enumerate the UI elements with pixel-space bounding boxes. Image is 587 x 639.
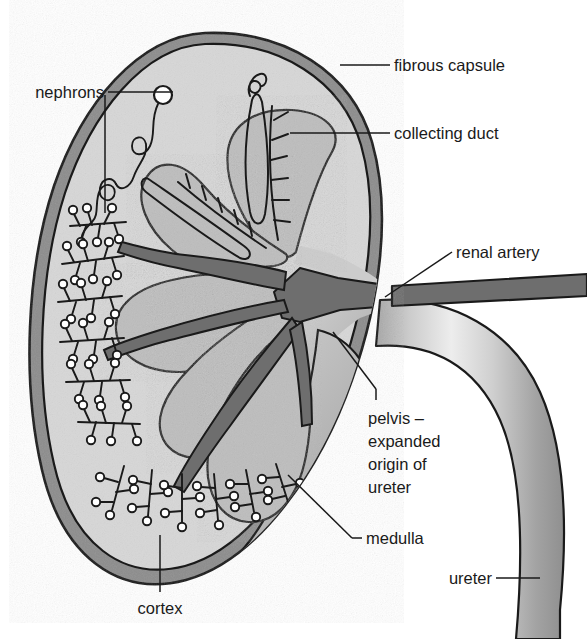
label-nephrons: nephrons bbox=[35, 83, 104, 101]
label-collecting-duct: collecting duct bbox=[394, 124, 499, 142]
label-pelvis: pelvis – expanded origin of ureter bbox=[368, 409, 441, 496]
label-fibrous-capsule: fibrous capsule bbox=[394, 56, 505, 74]
kidney-body bbox=[30, 33, 393, 584]
leader-medulla bbox=[288, 475, 352, 538]
label-cortex: cortex bbox=[138, 599, 184, 617]
kidney-diagram-figure: fibrous capsule collecting duct renal ar… bbox=[0, 0, 587, 639]
label-medulla: medulla bbox=[366, 529, 425, 547]
label-pelvis-line-1: pelvis – bbox=[368, 409, 425, 427]
renal-artery-vessel bbox=[392, 274, 587, 306]
label-renal-artery: renal artery bbox=[456, 243, 540, 261]
label-pelvis-line-4: ureter bbox=[368, 478, 412, 496]
label-ureter: ureter bbox=[449, 569, 493, 587]
label-pelvis-line-3: origin of bbox=[368, 455, 427, 473]
label-pelvis-line-2: expanded bbox=[368, 432, 441, 450]
